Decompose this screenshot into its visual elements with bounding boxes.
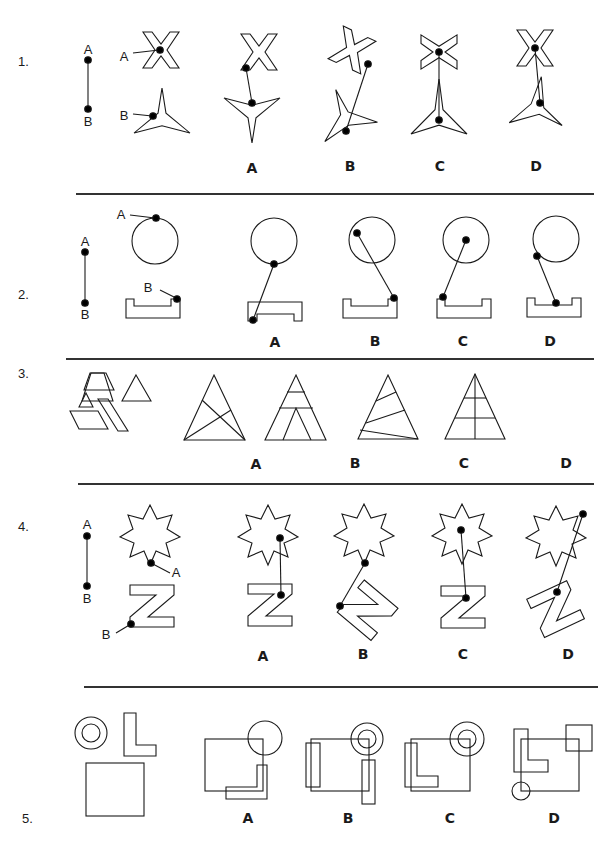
point-b — [85, 106, 92, 113]
q4-figures — [84, 504, 587, 640]
q2-figures — [82, 215, 581, 324]
q3-figures — [70, 373, 505, 440]
q1-figures — [85, 26, 578, 148]
figures-canvas — [0, 0, 615, 851]
three-point-star — [134, 88, 190, 133]
q5-figures — [75, 713, 592, 816]
point-a — [85, 57, 92, 64]
